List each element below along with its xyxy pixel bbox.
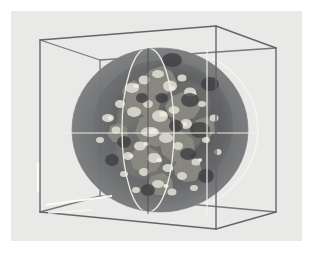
volume-grain-overlay: [72, 48, 248, 212]
isosurface-cloud: [72, 48, 248, 212]
box-edge-top-left-diagonal: [40, 40, 100, 60]
box-edge-front-top: [40, 26, 216, 40]
bottom-front-highlight: [46, 196, 112, 205]
visualization-root: [0, 0, 313, 259]
3d-scene-canvas: [0, 0, 313, 259]
box-highlight-segments-thin: [48, 210, 92, 213]
bottom-front-highlight-2: [48, 210, 92, 213]
box-edge-front-bottom: [40, 212, 216, 229]
box-edge-bottom-right-diagonal: [216, 212, 276, 229]
box-edge-top-right-diagonal: [216, 26, 276, 48]
